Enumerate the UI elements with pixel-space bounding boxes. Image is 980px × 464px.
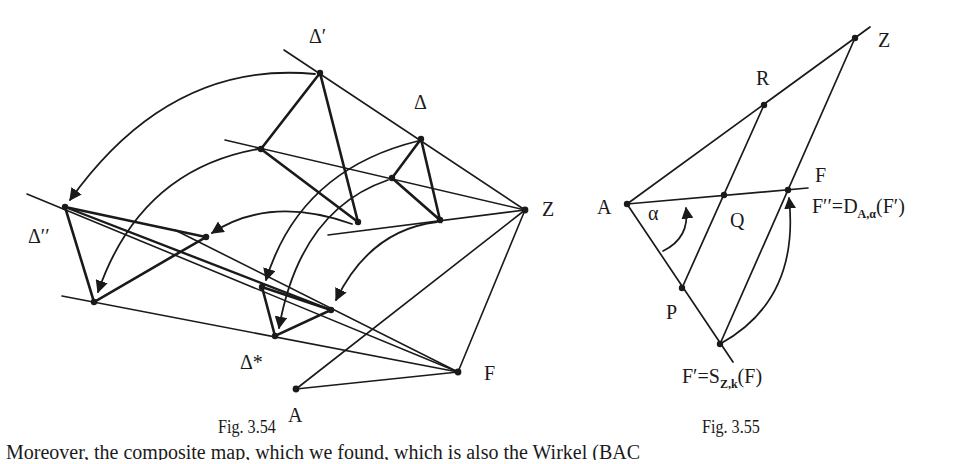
clipped-body-text: Moreover, the composite map, which we fo… [6, 441, 980, 464]
label-delta-double-prime: Δ′′ [28, 226, 50, 246]
label-a: A [597, 197, 611, 217]
f-prime-rhs: (F) [738, 365, 762, 387]
label-alpha: α [648, 203, 658, 223]
label-f: F [815, 165, 826, 185]
label-a: A [288, 405, 302, 425]
label-f: F [484, 363, 495, 383]
label-z: Z [878, 30, 890, 50]
f-double-prime-sub: A,α [858, 207, 876, 221]
label-p: P [666, 302, 677, 322]
f-double-prime-lhs: F′′=D [812, 195, 858, 217]
f-double-prime-rhs: (F′) [876, 195, 905, 217]
label-delta-prime: Δ′ [309, 26, 326, 46]
label-delta-star: Δ* [240, 352, 263, 372]
caption-fig-3-55: Fig. 3.55 [702, 416, 760, 438]
caption-fig-3-54: Fig. 3.54 [218, 416, 276, 438]
label-z: Z [542, 199, 554, 219]
f-prime-sub: Z,k [720, 377, 738, 391]
label-f-prime: F′=SZ,k(F) [682, 366, 762, 390]
label-r: R [756, 68, 769, 88]
label-q: Q [730, 210, 744, 230]
f-prime-lhs: F′=S [682, 365, 720, 387]
label-delta: Δ [414, 92, 427, 112]
label-f-double-prime: F′′=DA,α(F′) [812, 196, 905, 220]
